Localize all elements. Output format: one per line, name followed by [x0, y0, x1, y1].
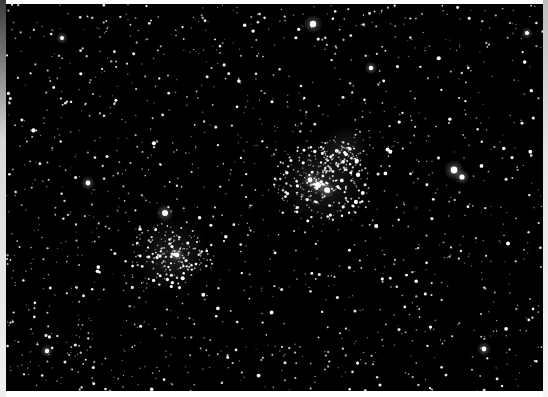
- stars-layer: [6, 4, 543, 391]
- image-frame: [0, 0, 548, 397]
- right-border: [543, 0, 548, 397]
- star-field-photo: [6, 4, 543, 391]
